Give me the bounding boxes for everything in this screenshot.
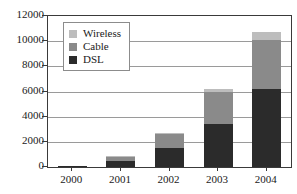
legend-swatch-icon — [69, 30, 77, 38]
x-axis-tick-mark — [217, 167, 218, 171]
bar-segment-cable[interactable] — [204, 92, 233, 125]
legend-swatch-icon — [69, 43, 77, 51]
x-axis-tick-mark — [169, 167, 170, 171]
bar-segment-cable[interactable] — [155, 134, 184, 148]
legend-item-cable[interactable]: Cable — [69, 40, 121, 53]
legend-item-label: Wireless — [83, 28, 121, 39]
bar-segment-cable[interactable] — [252, 40, 281, 89]
y-axis-tick-label: 12000 — [0, 9, 44, 20]
x-axis-tick-mark — [266, 167, 267, 171]
y-axis-tick-label: 10000 — [0, 34, 44, 45]
bar-segment-dsl[interactable] — [204, 124, 233, 167]
bar-stack-2001[interactable] — [106, 156, 135, 167]
bar-stack-2000[interactable] — [58, 166, 87, 167]
legend-item-dsl[interactable]: DSL — [69, 53, 121, 66]
bar-stack-2003[interactable] — [204, 89, 233, 167]
legend-item-label: Cable — [83, 41, 109, 52]
y-axis-tick-label: 2000 — [0, 135, 44, 146]
bar-segment-dsl[interactable] — [252, 89, 281, 167]
y-axis-tick-label: 0 — [0, 160, 44, 171]
bar-stack-2004[interactable] — [252, 32, 281, 167]
legend-swatch-icon — [69, 56, 77, 64]
legend-item-label: DSL — [83, 54, 104, 65]
legend-item-wireless[interactable]: Wireless — [69, 27, 121, 40]
y-axis-tick-label: 4000 — [0, 110, 44, 121]
x-axis-tick-mark — [71, 167, 72, 171]
x-axis-tick-label: 2004 — [236, 173, 296, 185]
y-axis-tick-label: 8000 — [0, 59, 44, 70]
y-axis-tick-label: 6000 — [0, 85, 44, 96]
bar-segment-dsl[interactable] — [155, 148, 184, 167]
bar-segment-dsl[interactable] — [106, 161, 135, 167]
bar-stack-2002[interactable] — [155, 133, 184, 167]
stacked-bar-chart: 020004000600080001000012000 200020012002… — [0, 0, 297, 194]
bar-segment-dsl[interactable] — [58, 166, 87, 167]
chart-legend: WirelessCableDSL — [63, 22, 130, 71]
bar-segment-wireless[interactable] — [252, 32, 281, 40]
x-axis-tick-mark — [120, 167, 121, 171]
